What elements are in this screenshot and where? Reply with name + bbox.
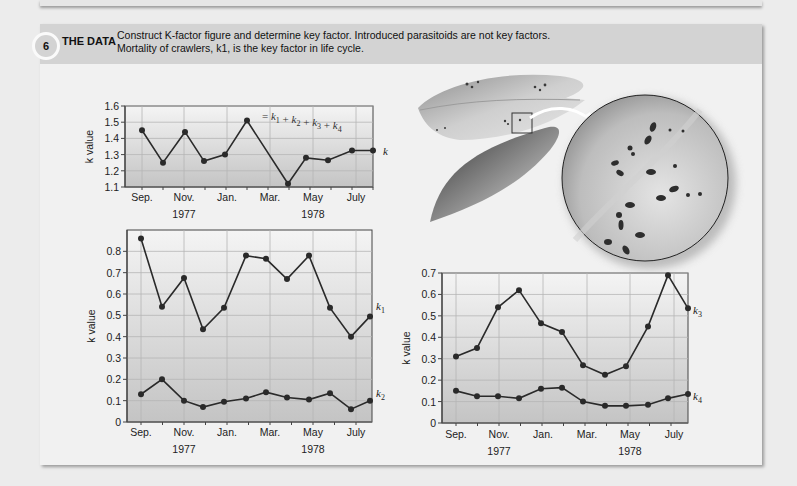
series-label: k1: [376, 300, 385, 315]
y-tick-label: 0.6: [106, 288, 121, 300]
x-tick-label: Sep.: [130, 426, 152, 438]
data-point: [306, 397, 312, 403]
data-point: [200, 326, 206, 332]
data-point: [348, 406, 354, 412]
y-tick-label: 1.4: [104, 132, 119, 144]
y-tick-label: 0.1: [421, 396, 436, 408]
x-tick-label: Mar.: [577, 428, 597, 440]
data-point: [685, 305, 691, 311]
y-tick-label: 0.5: [106, 309, 121, 321]
k1-k2-chart: 00.10.20.30.40.50.60.70.8Sep.Nov.Jan.Mar…: [85, 230, 385, 455]
x-tick-label: May: [303, 191, 324, 203]
data-point: [243, 396, 249, 402]
data-point: [580, 362, 586, 368]
data-point: [138, 236, 144, 242]
data-point: [559, 385, 565, 391]
data-point: [263, 389, 269, 395]
data-point: [367, 313, 373, 319]
y-axis-label: k value: [400, 331, 412, 364]
year-label: 1978: [618, 445, 642, 457]
x-tick-label: Jan.: [533, 428, 553, 440]
data-point: [221, 399, 227, 405]
data-point: [665, 272, 671, 278]
series-label: k2: [376, 387, 385, 402]
data-point: [138, 391, 144, 397]
y-tick-label: 0.5: [421, 310, 436, 322]
data-point: [327, 305, 333, 311]
series-label: k3: [693, 304, 702, 319]
x-tick-label: Jan.: [217, 426, 237, 438]
y-tick-label: 0.2: [106, 373, 121, 385]
data-point: [349, 148, 355, 154]
data-point: [303, 155, 309, 161]
data-point: [159, 376, 165, 382]
data-point: [538, 386, 544, 392]
data-point: [285, 181, 291, 187]
x-tick-label: Nov.: [489, 428, 510, 440]
data-point: [200, 404, 206, 410]
x-tick-label: Mar.: [260, 191, 280, 203]
data-point: [645, 402, 651, 408]
data-point: [181, 275, 187, 281]
y-tick-label: 0.3: [106, 352, 121, 364]
data-point: [263, 256, 269, 262]
data-point: [182, 129, 188, 135]
x-tick-label: Nov.: [174, 191, 195, 203]
y-tick-label: 0: [115, 416, 121, 428]
y-tick-label: 0.1: [106, 395, 121, 407]
x-tick-label: July: [347, 426, 366, 438]
data-point: [474, 393, 480, 399]
data-point: [516, 287, 522, 293]
total-k-chart: 1.11.21.31.41.51.6Sep.Nov.Jan.Mar.MayJul…: [83, 100, 389, 220]
x-tick-label: Sep.: [445, 428, 467, 440]
year-label: 1978: [301, 443, 325, 455]
data-point: [516, 395, 522, 401]
data-point: [139, 127, 145, 133]
data-point: [602, 403, 608, 409]
data-point: [602, 372, 608, 378]
y-tick-label: 1.5: [104, 116, 119, 128]
data-point: [538, 320, 544, 326]
year-label: 1978: [301, 208, 325, 220]
data-point: [367, 398, 373, 404]
data-point: [453, 354, 459, 360]
data-point: [665, 395, 671, 401]
data-point: [222, 152, 228, 158]
y-tick-label: 0: [430, 417, 436, 429]
year-label: 1977: [172, 443, 196, 455]
data-point: [201, 158, 207, 164]
data-point: [623, 403, 629, 409]
y-tick-label: 0.7: [421, 267, 436, 279]
x-tick-label: May: [303, 426, 324, 438]
x-tick-label: July: [347, 191, 366, 203]
data-point: [244, 118, 250, 124]
data-point: [159, 304, 165, 310]
series-label: k: [383, 145, 389, 157]
data-point: [348, 334, 354, 340]
data-point: [495, 304, 501, 310]
y-tick-label: 1.1: [104, 181, 119, 193]
x-tick-label: Mar.: [260, 426, 280, 438]
data-point: [623, 363, 629, 369]
x-tick-label: May: [620, 428, 641, 440]
data-point: [243, 253, 249, 259]
y-tick-label: 0.7: [106, 267, 121, 279]
data-point: [685, 391, 691, 397]
year-label: 1977: [172, 208, 196, 220]
y-tick-label: 0.4: [421, 331, 436, 343]
k3-k4-chart: 00.10.20.30.40.50.60.7Sep.Nov.Jan.Mar.Ma…: [400, 267, 702, 457]
data-point: [284, 394, 290, 400]
year-label: 1977: [487, 445, 511, 457]
y-tick-label: 0.3: [421, 353, 436, 365]
y-tick-label: 0.6: [421, 288, 436, 300]
y-tick-label: 1.2: [104, 165, 119, 177]
data-point: [160, 160, 166, 166]
y-axis-label: k value: [83, 130, 95, 163]
data-point: [580, 399, 586, 405]
data-point: [474, 345, 480, 351]
x-tick-label: Sep.: [131, 191, 153, 203]
data-point: [181, 398, 187, 404]
data-point: [495, 393, 501, 399]
y-tick-label: 0.4: [106, 331, 121, 343]
y-tick-label: 1.6: [104, 100, 119, 112]
